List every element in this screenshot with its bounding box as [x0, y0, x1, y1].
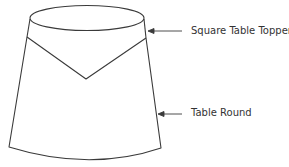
round-arrow-head: [158, 112, 164, 117]
topper-left-edge: [27, 19, 30, 37]
topper-arrow-head: [148, 29, 154, 34]
table-top-ellipse: [30, 6, 144, 31]
label-square-table-topper: Square Table Topper: [191, 25, 289, 37]
table-round-skirt: [9, 37, 161, 160]
topper-v-notch: [27, 37, 146, 79]
label-table-round: Table Round: [191, 107, 252, 119]
topper-right-edge: [144, 19, 146, 38]
